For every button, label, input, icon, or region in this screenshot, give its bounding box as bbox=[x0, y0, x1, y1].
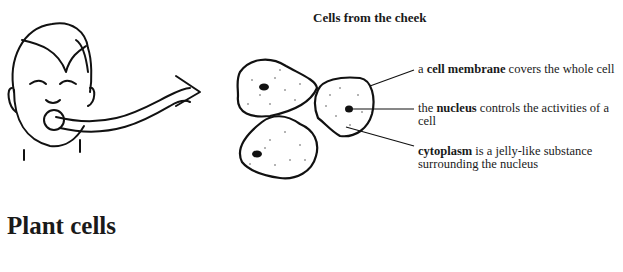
nucleus-label: the nucleus controls the activities of a… bbox=[418, 102, 623, 128]
cheek-cells-icon bbox=[238, 60, 374, 179]
cytoplasm-label: cytoplasm is a jelly-like substance surr… bbox=[418, 145, 623, 171]
face-with-swab-icon bbox=[9, 23, 200, 160]
diagram-title: Cells from the cheek bbox=[313, 10, 426, 26]
cell-membrane-label: a cell membrane covers the whole cell bbox=[418, 63, 623, 76]
section-heading: Plant cells bbox=[7, 212, 116, 240]
